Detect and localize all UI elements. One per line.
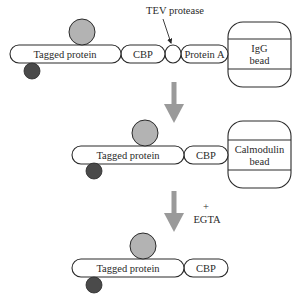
step3-complex: CBP Tagged protein [72, 233, 228, 293]
calmodulin-bead-label-line2: bead [250, 156, 271, 167]
dark-binding-partner-circle [86, 277, 102, 293]
process-arrow-1 [164, 82, 184, 123]
tagged-protein-step3: Tagged protein [72, 259, 184, 277]
igg-bead-label-line1: IgG [251, 43, 268, 54]
tagged-protein-step1: Tagged protein [10, 45, 121, 63]
tev-protease-label: TEV protease [146, 5, 204, 16]
tagged-protein-label-step1: Tagged protein [33, 49, 97, 60]
reagent-plus-sign: + [203, 201, 209, 212]
step1-complex: IgG bead Protein A CBP Tagged protein TE… [10, 5, 291, 87]
calmodulin-bead-label-line1: Calmodulin [235, 144, 285, 155]
tap-diagram: IgG bead Protein A CBP Tagged protein TE… [0, 0, 302, 302]
grey-binding-partner-circle [69, 19, 95, 45]
grey-binding-partner-circle [130, 233, 156, 259]
tagged-protein-step2: Tagged protein [72, 146, 184, 164]
dark-binding-partner-circle [24, 63, 40, 79]
protein-a-label: Protein A [185, 49, 225, 60]
cbp-domain-step3: CBP [184, 259, 228, 277]
igg-bead-label-line2: bead [250, 55, 271, 66]
cbp-label-step1: CBP [133, 49, 153, 60]
tagged-protein-label-step2: Tagged protein [96, 150, 160, 161]
tev-cleavage-arrow [163, 19, 171, 43]
tev-cleavage-site [165, 45, 181, 63]
cbp-domain-step2: CBP [184, 146, 228, 164]
tagged-protein-label-step3: Tagged protein [96, 263, 160, 274]
dark-binding-partner-circle [86, 163, 102, 179]
protein-a-domain: Protein A [181, 45, 228, 63]
process-arrow-2 [164, 191, 184, 232]
egta-label: EGTA [193, 214, 221, 225]
grey-binding-partner-circle [132, 120, 158, 146]
igg-bead: IgG bead [228, 22, 291, 87]
step2-complex: Calmodulin bead CBP Tagged protein [72, 120, 291, 188]
cbp-label-step3: CBP [196, 263, 216, 274]
cbp-label-step2: CBP [196, 150, 216, 161]
calmodulin-bead: Calmodulin bead [228, 121, 291, 188]
cbp-domain-step1: CBP [121, 45, 165, 63]
